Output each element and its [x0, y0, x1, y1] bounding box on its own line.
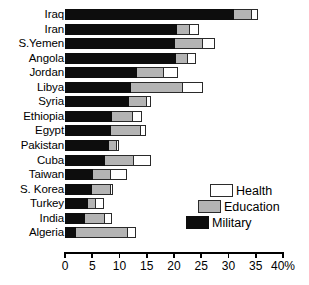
- category-label: Algeria: [0, 227, 64, 238]
- category-label: Cuba: [0, 155, 64, 166]
- category-label: Turkey: [0, 198, 64, 209]
- bar-segment-education: [93, 169, 111, 180]
- bar-row: Taiwan: [0, 169, 309, 180]
- x-axis-tick: [91, 252, 93, 258]
- bar-segment-health: [141, 125, 146, 136]
- bar-segment-military: [65, 213, 85, 224]
- bar-segment-education: [88, 198, 96, 209]
- bar-segment-health: [111, 169, 126, 180]
- bar-segment-education: [177, 24, 190, 35]
- stacked-bar: [65, 125, 146, 136]
- bar-segment-education: [234, 9, 252, 20]
- bar-row: Libya: [0, 82, 309, 93]
- stacked-bar: [65, 82, 203, 93]
- x-axis-tick: [146, 252, 148, 258]
- bar-segment-education: [129, 96, 147, 107]
- bar-segment-health: [183, 82, 203, 93]
- bar-segment-military: [65, 111, 112, 122]
- stacked-bar: [65, 198, 104, 209]
- bar-segment-education: [176, 53, 188, 64]
- bar-segment-education: [175, 38, 203, 49]
- bar-segment-education: [111, 125, 141, 136]
- bar-segment-education: [76, 227, 128, 238]
- stacked-bar: [65, 213, 112, 224]
- bar-segment-military: [65, 169, 93, 180]
- category-label: Angola: [0, 53, 64, 64]
- bar-row: Iran: [0, 24, 309, 35]
- category-label: Jordan: [0, 67, 64, 78]
- bar-segment-health: [134, 155, 150, 166]
- legend-item-education[interactable]: Education: [198, 199, 280, 214]
- legend-item-health[interactable]: Health: [210, 183, 272, 198]
- bar-segment-military: [65, 140, 109, 151]
- category-label: Iran: [0, 24, 64, 35]
- bar-segment-education: [92, 184, 111, 195]
- stacked-bar: [65, 38, 215, 49]
- bar-row: Iraq: [0, 9, 309, 20]
- stacked-bar: [65, 184, 113, 195]
- bar-row: Jordan: [0, 67, 309, 78]
- stacked-bar: [65, 24, 199, 35]
- category-label: Libya: [0, 82, 64, 93]
- bar-segment-education: [85, 213, 105, 224]
- legend-item-military[interactable]: Military: [186, 215, 252, 230]
- category-label: Ethiopia: [0, 111, 64, 122]
- bar-segment-health: [188, 53, 196, 64]
- category-label: Taiwan: [0, 169, 64, 180]
- x-axis-tick: [64, 252, 66, 258]
- bar-segment-health: [117, 140, 119, 151]
- stacked-bar: [65, 140, 119, 151]
- bar-row: Pakistan: [0, 140, 309, 151]
- legend-label: Health: [236, 184, 272, 198]
- x-axis-tick: [173, 252, 175, 258]
- x-axis-tick: [228, 252, 230, 258]
- stacked-bar: [65, 169, 127, 180]
- bar-segment-military: [65, 227, 76, 238]
- bar-segment-military: [65, 125, 111, 136]
- bar-segment-health: [128, 227, 136, 238]
- x-axis-tick: [282, 252, 284, 258]
- bar-segment-military: [65, 155, 105, 166]
- bar-segment-health: [105, 213, 112, 224]
- bar-segment-health: [164, 67, 179, 78]
- bar-segment-health: [190, 24, 198, 35]
- bar-row: S.Yemen: [0, 38, 309, 49]
- category-label: S. Korea: [0, 184, 64, 195]
- x-axis-tick-label: 40%: [261, 259, 305, 273]
- x-axis-tick: [119, 252, 121, 258]
- bar-segment-military: [65, 53, 176, 64]
- category-label: India: [0, 213, 64, 224]
- bar-row: Cuba: [0, 155, 309, 166]
- category-label: Egypt: [0, 125, 64, 136]
- bar-segment-health: [133, 111, 142, 122]
- bar-segment-military: [65, 96, 129, 107]
- bar-segment-education: [112, 111, 133, 122]
- bar-segment-education: [105, 155, 134, 166]
- stacked-bar-chart: IraqIranS.YemenAngolaJordanLibyaSyriaEth…: [0, 0, 309, 285]
- bar-row: Syria: [0, 96, 309, 107]
- bar-segment-military: [65, 184, 92, 195]
- category-label: Syria: [0, 96, 64, 107]
- bar-segment-health: [96, 198, 104, 209]
- bar-segment-military: [65, 82, 131, 93]
- bar-segment-health: [252, 9, 258, 20]
- stacked-bar: [65, 227, 136, 238]
- legend-swatch-military: [186, 216, 209, 229]
- bar-segment-military: [65, 24, 177, 35]
- stacked-bar: [65, 96, 151, 107]
- stacked-bar: [65, 155, 151, 166]
- bar-segment-health: [203, 38, 216, 49]
- legend-swatch-education: [198, 200, 221, 213]
- bar-segment-military: [65, 198, 88, 209]
- stacked-bar: [65, 53, 196, 64]
- bar-row: Angola: [0, 53, 309, 64]
- legend-label: Military: [212, 216, 252, 230]
- stacked-bar: [65, 67, 178, 78]
- x-axis-tick: [200, 252, 202, 258]
- bar-segment-military: [65, 67, 137, 78]
- bar-segment-health: [147, 96, 150, 107]
- category-label: Pakistan: [0, 140, 64, 151]
- bar-segment-education: [131, 82, 182, 93]
- bar-row: Egypt: [0, 125, 309, 136]
- bar-segment-health: [111, 184, 113, 195]
